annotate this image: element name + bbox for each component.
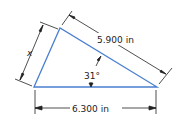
side-left-label: x <box>26 48 33 58</box>
dimension-hypotenuse <box>62 11 172 84</box>
dimension-left <box>15 22 58 86</box>
angle-label: 31° <box>84 71 100 81</box>
triangle-diagram: x 5.900 in 31° 6.300 in <box>0 0 181 124</box>
side-bottom-label: 6.300 in <box>72 104 109 114</box>
side-hypotenuse-label: 5.900 in <box>97 35 134 45</box>
